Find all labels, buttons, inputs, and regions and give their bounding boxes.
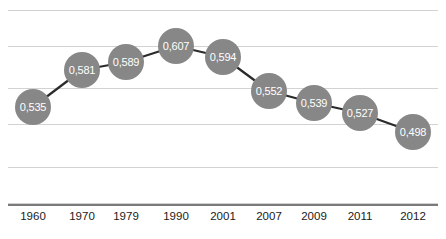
data-point-1979[interactable]: 0,589 [108, 44, 144, 80]
x-axis-line [8, 204, 438, 206]
data-point-1970[interactable]: 0,581 [64, 52, 100, 88]
data-point-2012[interactable]: 0,498 [395, 114, 431, 150]
data-point-1990[interactable]: 0,607 [158, 28, 194, 64]
data-point-1960[interactable]: 0,535 [15, 89, 51, 125]
data-point-2009[interactable]: 0,539 [296, 85, 332, 121]
data-point-2007[interactable]: 0,552 [251, 73, 287, 109]
series-line [0, 0, 446, 206]
x-tick-label-2012: 2012 [383, 210, 443, 222]
data-point-2001[interactable]: 0,594 [205, 39, 241, 75]
x-tick-label-2011: 2011 [330, 210, 390, 222]
x-axis-labels: 196019701979199020012007200920112012 [0, 210, 446, 234]
plot-area: 0,5350,5810,5890,6070,5940,5520,5390,527… [0, 0, 446, 206]
data-point-2011[interactable]: 0,527 [342, 95, 378, 131]
line-chart: 0,5350,5810,5890,6070,5940,5520,5390,527… [0, 0, 446, 239]
